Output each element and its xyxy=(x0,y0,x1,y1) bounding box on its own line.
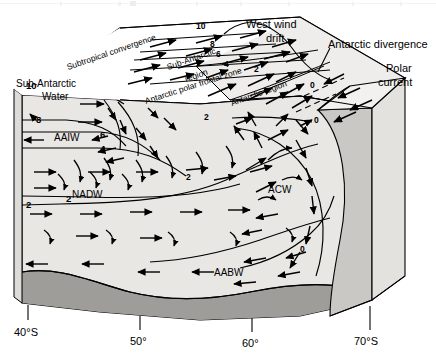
axis-tick-label-40s: 40°S xyxy=(14,326,38,338)
isotherm-label-interior-2a: 2 xyxy=(204,112,209,122)
isotherm-label-front-8: 8 xyxy=(36,114,41,125)
label-acw: ACW xyxy=(268,184,292,195)
label-sub-antarctic-water-line1: Sub-Antarctic xyxy=(16,78,76,89)
axis-tick-label-60: 60° xyxy=(242,337,259,349)
isotherm-label-front-2a: 2 xyxy=(26,199,31,210)
label-polar-current-line1: Polar xyxy=(386,62,412,74)
label-sub-antarctic-water-line2: Water xyxy=(42,91,69,102)
isotherm-label-top-6: 6 xyxy=(216,49,221,59)
isotherm-label-interior-2b: 2 xyxy=(186,172,191,182)
isotherm-label-top-0: 0 xyxy=(310,80,315,90)
figure-canvas: Subtropical convergence Sub-Antarctic re… xyxy=(0,0,436,354)
ocean-block-diagram: Subtropical convergence Sub-Antarctic re… xyxy=(0,0,436,354)
label-aaiw: AAIW xyxy=(54,132,80,143)
isotherm-label-front-10: 10 xyxy=(26,80,37,91)
label-antarctic-divergence: Antarctic divergence xyxy=(328,38,428,50)
isotherm-label-front-4: 4 xyxy=(100,143,106,154)
axis-tick-label-70s: 70°S xyxy=(354,335,378,347)
axis-tick-label-50: 50° xyxy=(130,335,147,347)
label-nadw: NADW xyxy=(72,189,103,200)
label-aabw: AABW xyxy=(214,267,244,278)
label-west-wind-drift-line2: drift xyxy=(266,32,284,44)
label-west-wind-drift-line1: West wind xyxy=(246,18,297,30)
isotherm-label-front-2b: 2 xyxy=(66,193,71,204)
scan-artifact xyxy=(0,1,436,6)
label-polar-current-line2: current xyxy=(378,76,412,88)
isotherm-label-top-8: 8 xyxy=(210,39,215,49)
isotherm-label-top-10: 10 xyxy=(196,21,206,31)
isotherm-label-top-4: 4 xyxy=(224,59,229,69)
isotherm-label-interior-0b: 0 xyxy=(300,244,305,254)
isotherm-label-top-2: 2 xyxy=(254,64,259,74)
isotherm-label-interior-0a: 0 xyxy=(314,115,319,125)
isotherm-label-front-6: 6 xyxy=(100,129,105,140)
